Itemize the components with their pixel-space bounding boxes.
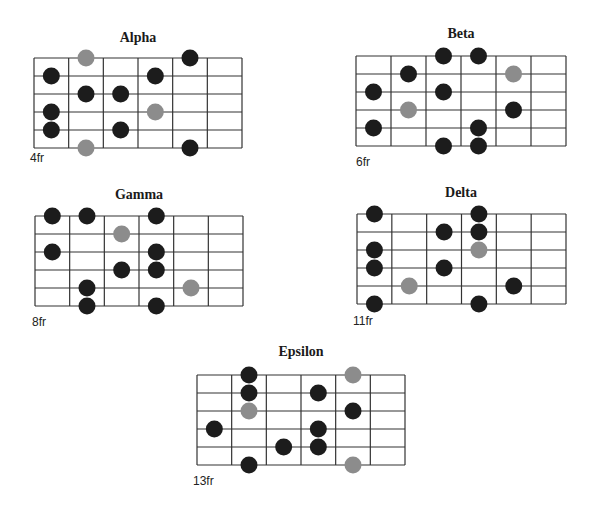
- note-dots: [366, 206, 522, 313]
- note-dot: [366, 206, 383, 223]
- fretboard-grid: [34, 58, 242, 148]
- note-dot: [365, 84, 382, 101]
- diagram-title: Beta: [447, 26, 474, 41]
- fretboard-grid: [357, 214, 566, 304]
- note-dot: [148, 208, 165, 225]
- note-dot: [147, 68, 164, 85]
- fretboard-diagram-epsilon: Epsilon13fr: [193, 344, 405, 488]
- note-dot: [470, 138, 487, 155]
- note-dot: [435, 48, 452, 65]
- note-dot: [435, 138, 452, 155]
- fretboard-diagram-alpha: Alpha4fr: [30, 30, 242, 165]
- note-dot: [206, 421, 223, 438]
- note-dot: [43, 122, 60, 139]
- note-dot: [345, 403, 362, 420]
- note-dot: [79, 208, 96, 225]
- fretboard-grid: [356, 56, 566, 146]
- note-dot: [366, 242, 383, 259]
- fret-position-label: 6fr: [356, 155, 370, 169]
- note-dot: [310, 385, 327, 402]
- note-dot: [43, 104, 60, 121]
- note-dots: [44, 208, 200, 315]
- root-note-dot: [78, 50, 95, 67]
- root-note-dot: [345, 367, 362, 384]
- fretboard-diagram-beta: Beta6fr: [356, 26, 566, 169]
- root-note-dot: [147, 104, 164, 121]
- note-dots: [43, 50, 199, 157]
- note-dot: [505, 278, 522, 295]
- note-dot: [310, 421, 327, 438]
- scale-diagrams-canvas: Alpha4fr Beta6fr Gamma8fr Delta11fr Epsi…: [0, 0, 594, 505]
- root-note-dot: [183, 280, 200, 297]
- note-dots: [365, 48, 522, 155]
- note-dot: [470, 120, 487, 137]
- note-dot: [505, 102, 522, 119]
- note-dot: [275, 439, 292, 456]
- note-dot: [241, 385, 258, 402]
- note-dot: [470, 206, 487, 223]
- note-dot: [148, 262, 165, 279]
- note-dot: [365, 120, 382, 137]
- fret-position-label: 11fr: [353, 314, 373, 328]
- note-dot: [113, 262, 130, 279]
- note-dot: [366, 296, 383, 313]
- note-dot: [112, 86, 129, 103]
- root-note-dot: [113, 226, 130, 243]
- note-dot: [310, 439, 327, 456]
- note-dot: [79, 298, 96, 315]
- diagram-title: Epsilon: [278, 344, 323, 359]
- note-dot: [435, 84, 452, 101]
- note-dot: [44, 244, 61, 261]
- fretboard-diagram-delta: Delta11fr: [353, 185, 566, 328]
- note-dot: [79, 280, 96, 297]
- note-dot: [43, 68, 60, 85]
- root-note-dot: [78, 140, 95, 157]
- root-note-dot: [400, 102, 417, 119]
- note-dot: [470, 224, 487, 241]
- diagram-title: Gamma: [115, 187, 163, 202]
- fretboard-diagram-gamma: Gamma8fr: [32, 187, 243, 329]
- note-dot: [148, 244, 165, 261]
- fretboard-grid: [35, 216, 243, 306]
- note-dot: [78, 86, 95, 103]
- note-dot: [182, 140, 199, 157]
- note-dot: [44, 208, 61, 225]
- note-dot: [241, 367, 258, 384]
- root-note-dot: [401, 278, 418, 295]
- note-dot: [241, 457, 258, 474]
- fret-position-label: 4fr: [30, 151, 44, 165]
- note-dot: [366, 260, 383, 277]
- root-note-dot: [345, 457, 362, 474]
- fret-position-label: 13fr: [193, 474, 214, 488]
- note-dots: [206, 367, 362, 474]
- note-dot: [112, 122, 129, 139]
- root-note-dot: [470, 242, 487, 259]
- note-dot: [470, 296, 487, 313]
- root-note-dot: [241, 403, 258, 420]
- note-dot: [148, 298, 165, 315]
- note-dot: [182, 50, 199, 67]
- note-dot: [400, 66, 417, 83]
- fret-position-label: 8fr: [32, 315, 46, 329]
- root-note-dot: [505, 66, 522, 83]
- fretboard-grid: [197, 375, 405, 465]
- note-dot: [436, 224, 453, 241]
- note-dot: [436, 260, 453, 277]
- diagram-title: Delta: [445, 185, 477, 200]
- note-dot: [470, 48, 487, 65]
- diagram-title: Alpha: [120, 30, 157, 45]
